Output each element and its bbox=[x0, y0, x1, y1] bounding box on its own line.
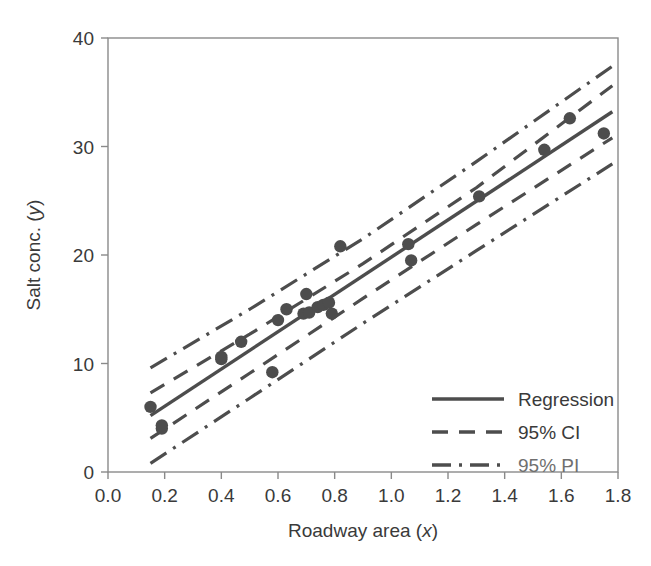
x-tick-label: 0.4 bbox=[208, 485, 235, 506]
figure-background bbox=[0, 0, 651, 566]
data-point bbox=[598, 127, 610, 139]
data-point bbox=[326, 307, 338, 319]
data-point bbox=[473, 190, 485, 202]
scatter-plot-with-regression: 0.00.20.40.60.81.01.21.41.61.8 010203040… bbox=[0, 0, 651, 566]
data-point bbox=[144, 401, 156, 413]
data-point bbox=[334, 240, 346, 252]
data-point bbox=[272, 314, 284, 326]
x-tick-label: 0.2 bbox=[151, 485, 177, 506]
legend-label: 95% CI bbox=[518, 422, 580, 443]
x-tick-label: 1.0 bbox=[378, 485, 404, 506]
x-tick-label: 0.8 bbox=[321, 485, 347, 506]
data-point bbox=[300, 288, 312, 300]
x-tick-label: 0.0 bbox=[95, 485, 121, 506]
y-tick-label: 40 bbox=[73, 28, 94, 49]
data-point bbox=[538, 144, 550, 156]
legend-label: 95% PI bbox=[518, 455, 579, 476]
data-point bbox=[402, 238, 414, 250]
y-tick-label: 0 bbox=[83, 462, 94, 483]
y-tick-label: 30 bbox=[73, 137, 94, 158]
x-tick-label: 1.4 bbox=[491, 485, 518, 506]
y-tick-label: 20 bbox=[73, 245, 94, 266]
data-point bbox=[156, 419, 168, 431]
chart-figure: 0.00.20.40.60.81.01.21.41.61.8 010203040… bbox=[0, 0, 651, 566]
data-point bbox=[266, 366, 278, 378]
x-tick-label: 1.8 bbox=[605, 485, 631, 506]
x-tick-label: 1.6 bbox=[548, 485, 574, 506]
data-point bbox=[323, 297, 335, 309]
legend-label: Regression bbox=[518, 389, 614, 410]
y-tick-label: 10 bbox=[73, 354, 94, 375]
x-tick-label: 1.2 bbox=[435, 485, 461, 506]
data-point bbox=[280, 303, 292, 315]
x-axis-title: Roadway area (x) bbox=[288, 520, 438, 541]
y-axis-title: Salt conc. (y) bbox=[23, 200, 44, 311]
data-point bbox=[564, 112, 576, 124]
data-point bbox=[235, 336, 247, 348]
data-point bbox=[215, 351, 227, 363]
data-point bbox=[405, 254, 417, 266]
x-tick-label: 0.6 bbox=[265, 485, 291, 506]
